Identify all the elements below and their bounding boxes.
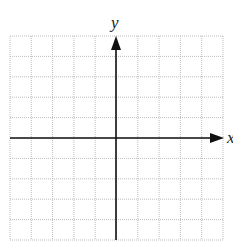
x-axis-arrow-icon bbox=[210, 133, 224, 143]
x-axis-label: x bbox=[226, 128, 233, 147]
y-axis-arrow-icon bbox=[111, 36, 121, 50]
coordinate-grid: y x bbox=[0, 0, 233, 242]
y-axis-label: y bbox=[109, 13, 119, 32]
